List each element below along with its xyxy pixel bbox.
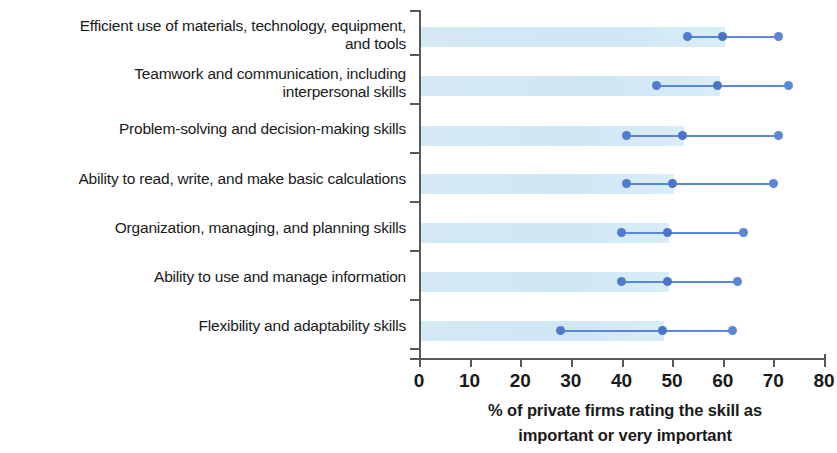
data-row <box>419 24 829 50</box>
range-connector-line <box>627 135 779 137</box>
x-axis-tick-label-60: 60 <box>712 370 733 392</box>
y-axis-tick-1 <box>410 54 419 56</box>
data-point-marker-high <box>769 179 778 188</box>
category-label-2: Problem-solving and decision-making skil… <box>0 120 406 138</box>
category-label-5: Ability to use and manage information <box>0 268 406 286</box>
category-label-3: Ability to read, write, and make basic c… <box>0 170 406 188</box>
range-connector-line <box>622 281 738 283</box>
x-axis-caption-line-2: important or very important <box>419 423 831 448</box>
data-point-marker-high <box>733 277 742 286</box>
x-axis-tick-20 <box>520 358 522 367</box>
x-axis-caption: % of private firms rating the skill as i… <box>419 398 831 448</box>
category-label-6: Flexibility and adaptability skills <box>0 317 406 335</box>
x-axis-tick-70 <box>773 358 775 367</box>
data-point-marker-mid <box>658 326 667 335</box>
data-row <box>419 269 829 295</box>
data-point-marker-mid <box>713 81 722 90</box>
range-connector-line <box>627 183 774 185</box>
range-connector-line <box>622 232 744 234</box>
x-axis-tick-80 <box>824 354 826 367</box>
data-row <box>419 318 829 344</box>
x-axis-tick-label-10: 10 <box>459 370 480 392</box>
category-label-0-line-1: Efficient use of materials, technology, … <box>80 17 406 34</box>
data-point-marker-mid <box>718 32 727 41</box>
category-label-1-line-1: Teamwork and communication, including <box>134 65 406 82</box>
x-axis-tick-40 <box>622 358 624 367</box>
x-axis-tick-label-80: 80 <box>813 370 834 392</box>
data-point-marker-mid <box>668 179 677 188</box>
y-axis-tick-4 <box>410 201 419 203</box>
data-point-marker-high <box>739 228 748 237</box>
category-axis-labels: Efficient use of materials, technology, … <box>0 0 412 360</box>
x-axis-tick-label-0: 0 <box>414 370 425 392</box>
data-point-marker-mid <box>678 131 687 140</box>
data-point-marker-high <box>774 131 783 140</box>
y-axis-tick-5 <box>410 250 419 252</box>
x-axis: 01020304050607080 <box>419 358 829 398</box>
range-connector-line <box>687 36 778 38</box>
x-axis-tick-label-50: 50 <box>662 370 683 392</box>
y-axis-tick-6 <box>410 299 419 301</box>
data-point-marker-low <box>617 277 626 286</box>
x-axis-tick-label-20: 20 <box>510 370 531 392</box>
data-row <box>419 123 829 149</box>
y-axis-tick-8 <box>410 358 419 360</box>
data-point-marker-low <box>683 32 692 41</box>
data-point-marker-mid <box>663 228 672 237</box>
x-axis-tick-10 <box>470 358 472 367</box>
x-axis-tick-60 <box>723 358 725 367</box>
x-axis-tick-label-70: 70 <box>763 370 784 392</box>
data-row <box>419 73 829 99</box>
category-label-0: Efficient use of materials, technology, … <box>0 17 406 53</box>
y-axis-tick-0 <box>410 10 419 12</box>
x-axis-caption-line-1: % of private firms rating the skill as <box>419 398 831 423</box>
value-band <box>421 27 725 47</box>
x-axis-tick-0 <box>419 354 421 367</box>
data-point-marker-low <box>622 179 631 188</box>
category-label-1: Teamwork and communication, including in… <box>0 65 406 101</box>
range-connector-line <box>657 85 789 87</box>
data-point-marker-high <box>784 81 793 90</box>
x-axis-tick-50 <box>672 358 674 367</box>
data-row <box>419 171 829 197</box>
x-axis-tick-label-40: 40 <box>611 370 632 392</box>
x-axis-tick-label-30: 30 <box>560 370 581 392</box>
data-point-marker-low <box>617 228 626 237</box>
x-axis-tick-30 <box>571 358 573 367</box>
data-row <box>419 220 829 246</box>
range-connector-line <box>561 330 733 332</box>
data-point-marker-high <box>728 326 737 335</box>
y-axis-tick-2 <box>410 103 419 105</box>
data-point-marker-high <box>774 32 783 41</box>
category-label-0-line-2: and tools <box>345 35 406 52</box>
data-point-marker-mid <box>663 277 672 286</box>
horizontal-dot-range-chart: Efficient use of materials, technology, … <box>0 0 837 453</box>
category-label-1-line-2: interpersonal skills <box>283 83 407 100</box>
plot-area <box>419 10 829 360</box>
data-point-marker-low <box>622 131 631 140</box>
y-axis-tick-7 <box>410 348 419 350</box>
y-axis-tick-3 <box>410 152 419 154</box>
category-label-4: Organization, managing, and planning ski… <box>0 219 406 237</box>
